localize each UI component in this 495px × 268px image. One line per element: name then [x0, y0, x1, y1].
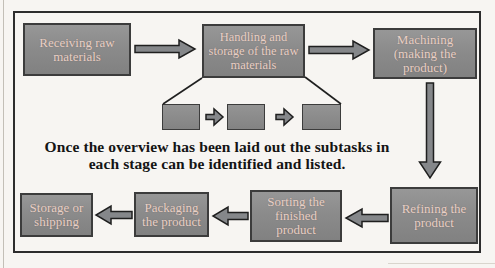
- arrow-packaging-to-storage-icon: [95, 205, 133, 225]
- node-label-line: Storage or: [30, 201, 84, 215]
- node-label-line: Sorting the: [267, 195, 324, 209]
- node-storage-shipping: Storage or shipping: [20, 193, 93, 237]
- flowchart-figure: Receiving raw materials Handling and sto…: [0, 0, 495, 268]
- node-machining: Machining (making the product): [373, 28, 477, 79]
- caption-line-1: Once the overview has been laid out the …: [12, 138, 422, 155]
- scan-artifact-left: [3, 0, 4, 268]
- arrow-refining-to-sorting-icon: [345, 208, 389, 228]
- node-label-line: finished: [275, 209, 317, 223]
- node-label-line: Refining the: [402, 202, 467, 216]
- node-packaging: Packaging the product: [134, 192, 209, 237]
- node-label-line: materials: [53, 50, 101, 64]
- node-label-line: storage of the raw: [209, 44, 299, 58]
- node-sorting: Sorting the finished product: [250, 190, 342, 242]
- arrow-sorting-to-packaging-icon: [212, 206, 249, 226]
- subtask-box-1: [162, 104, 200, 130]
- node-label-line: product: [414, 216, 454, 230]
- subtask-arrow-2-icon: [275, 108, 294, 126]
- node-refining: Refining the product: [390, 187, 478, 244]
- node-label-line: Machining: [397, 33, 453, 47]
- node-label-line: (making the: [394, 47, 456, 61]
- node-label-line: Handling and: [220, 30, 288, 44]
- arrow-receiving-to-handling-icon: [134, 39, 196, 59]
- arrow-handling-to-machining-icon: [308, 40, 370, 60]
- node-label-line: shipping: [34, 215, 79, 229]
- subtask-box-3: [302, 104, 341, 130]
- node-label-line: product): [403, 61, 447, 75]
- node-label-line: Packaging: [144, 201, 198, 215]
- node-label-line: Receiving raw: [39, 36, 114, 50]
- subtask-box-2: [227, 104, 265, 130]
- node-label-line: product: [276, 223, 316, 237]
- caption-line-2: each stage can be identified and listed.: [12, 155, 422, 172]
- node-label-line: materials: [231, 58, 277, 72]
- subtask-arrow-1-icon: [205, 108, 224, 126]
- node-receiving-raw-materials: Receiving raw materials: [23, 23, 131, 76]
- node-label-line: the product: [142, 215, 201, 229]
- scan-artifact-bottom: [388, 263, 495, 264]
- node-handling-storage: Handling and storage of the raw material…: [202, 24, 305, 78]
- caption-text: Once the overview has been laid out the …: [12, 138, 422, 172]
